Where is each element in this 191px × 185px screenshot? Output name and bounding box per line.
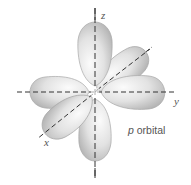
orbital-drawing (0, 0, 191, 185)
orbital-caption: p orbital (128, 125, 165, 136)
y-axis-label: y (174, 96, 179, 107)
z-axis-label: z (101, 10, 105, 21)
caption-orbital: orbital (134, 124, 166, 136)
x-axis-label: x (44, 137, 49, 148)
p-orbital-diagram: z y x p orbital (0, 0, 191, 185)
